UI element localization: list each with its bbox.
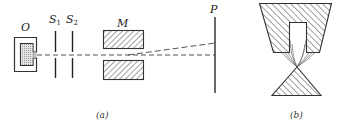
oven: O xyxy=(15,21,37,72)
figure-a: O S1 S2 M xyxy=(15,3,219,120)
slit-s1: S1 xyxy=(49,13,61,78)
detector-plate: P xyxy=(209,3,218,93)
figure-b: (b) xyxy=(260,4,332,121)
oven-interior-stipple xyxy=(21,44,33,65)
magnet-label: M xyxy=(116,17,129,30)
oven-label: O xyxy=(21,21,30,34)
magnet: M xyxy=(104,17,144,80)
magnet-upper-pole xyxy=(104,31,144,49)
plate-label: P xyxy=(209,3,218,16)
stern-gerlach-diagram: O S1 S2 M xyxy=(0,0,343,125)
slit-s2: S2 xyxy=(66,13,78,78)
figure-b-caption: (b) xyxy=(290,110,303,120)
upper-pole-piece-cross-section xyxy=(260,4,332,53)
slit-s1-label: S1 xyxy=(49,13,61,27)
magnet-lower-pole xyxy=(104,61,144,80)
slit-s2-label: S2 xyxy=(66,13,78,27)
oven-aperture xyxy=(33,53,37,58)
figure-a-caption: (a) xyxy=(96,110,109,120)
lower-pole-piece-wedge xyxy=(272,67,321,96)
